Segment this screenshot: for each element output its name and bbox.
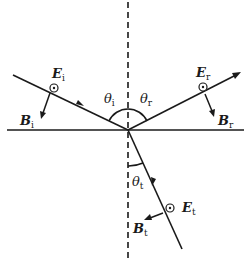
svg-text:Bt: Bt (132, 221, 148, 238)
svg-text:Br: Br (217, 113, 234, 130)
svg-text:Ei: Ei (51, 66, 65, 83)
reflected-E-field: Er (195, 65, 211, 91)
svg-text:Et: Et (181, 200, 196, 217)
incident-B-label: B (19, 113, 31, 128)
svg-text:Bi: Bi (19, 113, 34, 130)
B-arrow-icon (40, 111, 46, 119)
B-arrow-icon (144, 214, 152, 220)
incident-B-field: Bi (19, 93, 50, 130)
incident-E-field: Ei (50, 66, 65, 92)
transmitted-B-field: Bt (132, 213, 163, 238)
theta-t-label: θt (132, 174, 144, 191)
reflected-B-label: B (217, 113, 229, 128)
theta-i-label: θi (104, 91, 115, 108)
theta-r-label: θr (140, 91, 153, 108)
transmitted-B-label: B (132, 221, 144, 236)
angle-arc-transmitted (128, 163, 143, 166)
B-arrow-icon (209, 109, 215, 117)
svg-text:Er: Er (195, 65, 211, 82)
reflection-refraction-diagram: Ei Bi Er Br Et Bt (0, 0, 251, 260)
transmitted-E-field: Et (166, 200, 196, 217)
reflected-direction-arrow-icon (232, 72, 241, 79)
reflected-B-field: Br (205, 94, 234, 130)
